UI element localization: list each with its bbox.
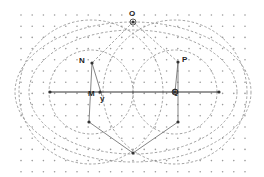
grid-dot [188, 59, 190, 61]
grid-dot [233, 149, 235, 151]
points[interactable] [48, 19, 220, 155]
grid-dot [222, 93, 224, 95]
grid-dot [65, 160, 67, 162]
grid-dot [76, 59, 78, 61]
grid-dot [121, 115, 123, 117]
grid-dot [211, 93, 213, 95]
grid-dot [188, 149, 190, 151]
grid-dot [31, 93, 33, 95]
point-c[interactable] [131, 151, 134, 154]
grid-dot [211, 14, 213, 16]
grid-dot [99, 81, 101, 83]
grid-dot [244, 81, 246, 83]
grid-dot [244, 126, 246, 128]
grid-dot [177, 48, 179, 50]
grid-dot [43, 149, 45, 151]
grid-dot [155, 14, 157, 16]
grid-dot [54, 171, 56, 173]
grid-dot [20, 14, 22, 16]
solid-segments [89, 62, 178, 153]
grid-dot [244, 25, 246, 27]
grid-dot [233, 70, 235, 72]
grid-dot [143, 149, 145, 151]
dashed-segment [133, 22, 178, 62]
point-p[interactable] [176, 60, 179, 63]
grid-dot [99, 25, 101, 27]
grid-dot [110, 171, 112, 173]
grid-dot [233, 37, 235, 39]
grid-dot [166, 137, 168, 139]
grid-dot [166, 48, 168, 50]
grid-dot [121, 81, 123, 83]
grid-dot [233, 25, 235, 27]
grid-dot [65, 171, 67, 173]
grid-dot [188, 126, 190, 128]
grid-dot [166, 70, 168, 72]
grid-dot [43, 104, 45, 106]
grid-dot [166, 59, 168, 61]
grid-dot [211, 48, 213, 50]
point-o[interactable] [131, 20, 134, 23]
grid-dot [76, 104, 78, 106]
point-a[interactable] [87, 120, 90, 123]
grid-dot [233, 14, 235, 16]
grid-dot [155, 25, 157, 27]
grid-dot [143, 48, 145, 50]
grid-dot [43, 48, 45, 50]
grid-dot [211, 171, 213, 173]
geometry-canvas[interactable] [0, 0, 264, 177]
grid-dot [65, 48, 67, 50]
grid-dot [31, 81, 33, 83]
grid-dot [166, 149, 168, 151]
point-n[interactable] [90, 61, 93, 64]
grid-dot [132, 126, 134, 128]
point-r[interactable] [217, 90, 220, 93]
grid-dot [211, 160, 213, 162]
grid-dot [110, 81, 112, 83]
grid-dot [155, 48, 157, 50]
grid-dot [110, 149, 112, 151]
grid-dot [99, 160, 101, 162]
grid-dot [31, 137, 33, 139]
grid-dot [211, 115, 213, 117]
point-label-o: O [129, 10, 135, 18]
grid-dot [132, 48, 134, 50]
grid-dot [132, 160, 134, 162]
grid-dot [43, 25, 45, 27]
grid-dot [31, 14, 33, 16]
grid-dot [155, 70, 157, 72]
grid-dot [121, 37, 123, 39]
grid-dot [199, 104, 201, 106]
grid-dot [199, 37, 201, 39]
grid-dot [20, 48, 22, 50]
point-b[interactable] [176, 120, 179, 123]
grid-dot [211, 37, 213, 39]
grid-dot [20, 25, 22, 27]
point-l[interactable] [48, 90, 51, 93]
grid-dot [143, 70, 145, 72]
grid-dot [54, 81, 56, 83]
grid-dot [87, 104, 89, 106]
grid-dot [188, 171, 190, 173]
grid-dot [188, 115, 190, 117]
grid-dot [233, 93, 235, 95]
grid-dot [155, 171, 157, 173]
grid-dot [31, 59, 33, 61]
grid-dot [211, 137, 213, 139]
grid-dot [244, 160, 246, 162]
grid-dot [132, 25, 134, 27]
grid-dot [20, 37, 22, 39]
grid-dot [99, 115, 101, 117]
grid-dot [143, 115, 145, 117]
grid-dot [166, 104, 168, 106]
grid-dot [110, 104, 112, 106]
grid-dot [143, 171, 145, 173]
grid-dot [233, 115, 235, 117]
grid-dot [110, 115, 112, 117]
grid-dot [233, 160, 235, 162]
grid-dot [65, 81, 67, 83]
grid-dot [20, 93, 22, 95]
grid-dot [222, 25, 224, 27]
grid-dot [121, 14, 123, 16]
point-label-q: Q [172, 88, 178, 96]
